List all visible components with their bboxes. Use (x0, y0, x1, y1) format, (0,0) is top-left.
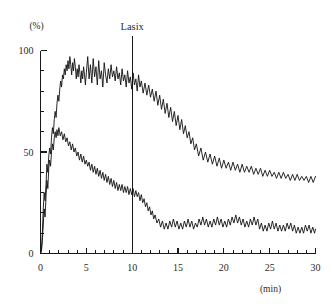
renogram-figure: 051015202530(min)050100(%)Lasix (0, 0, 333, 304)
chart-canvas: 051015202530(min)050100(%)Lasix (0, 0, 333, 304)
y-tick-label: 0 (29, 248, 34, 259)
x-tick-label: 20 (219, 262, 229, 273)
y-axis-unit-label: (%) (29, 21, 43, 32)
x-tick-label: 15 (173, 262, 183, 273)
x-tick-label: 10 (127, 262, 137, 273)
x-tick-label: 0 (38, 262, 43, 273)
y-tick-label: 100 (19, 45, 34, 56)
y-tick-label: 50 (24, 147, 34, 158)
x-tick-label: 5 (84, 262, 89, 273)
x-tick-label: 30 (311, 262, 321, 273)
trace-lower-curve (41, 128, 316, 254)
x-tick-label: 25 (265, 262, 275, 273)
lasix-event-label: Lasix (121, 21, 145, 32)
x-axis-unit-label: (min) (260, 284, 281, 295)
